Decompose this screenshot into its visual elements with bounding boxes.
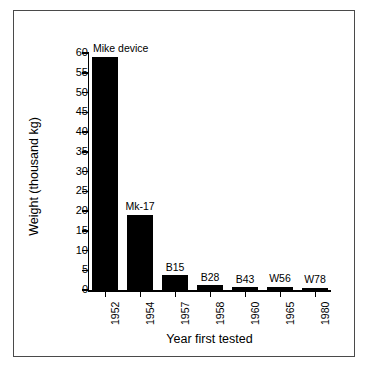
bar-label-w78: W78 (297, 274, 333, 285)
y-tick-mark-15 (82, 230, 88, 231)
bar-1980 (302, 288, 328, 290)
x-axis-title: Year first tested (88, 333, 331, 346)
bar-1952 (92, 57, 118, 290)
y-tick-mark-10 (82, 250, 88, 251)
y-tick-mark-5 (82, 270, 88, 271)
x-tick-label-1954: 1954 (145, 302, 156, 325)
bar-label-b28: B28 (192, 272, 228, 283)
x-tick-mark-1980 (315, 291, 316, 297)
x-tick-mark-1958 (210, 291, 211, 297)
x-tick-mark-1957 (175, 291, 176, 297)
bar-chart-plot: 60 55 50 45 40 35 30 25 (0, 0, 367, 368)
x-tick-label-1952: 1952 (110, 302, 121, 325)
y-tick-mark-0 (82, 289, 88, 290)
y-tick-mark-25 (82, 191, 88, 192)
bar-1965 (267, 287, 293, 290)
bar-label-w56: W56 (262, 273, 298, 284)
x-tick-mark-1965 (280, 291, 281, 297)
x-tick-label-1958: 1958 (215, 302, 226, 325)
y-axis-title: Weight (thousand kg) (28, 97, 41, 257)
x-tick-label-1965: 1965 (285, 302, 296, 325)
y-axis-line (88, 52, 89, 291)
x-tick-mark-1954 (140, 291, 141, 297)
x-tick-label-1980: 1980 (320, 302, 331, 325)
y-tick-mark-45 (82, 112, 88, 113)
y-tick-mark-30 (82, 171, 88, 172)
y-tick-mark-60 (82, 52, 88, 53)
y-tick-mark-55 (82, 72, 88, 73)
y-tick-mark-20 (82, 210, 88, 211)
bar-1957 (162, 275, 188, 290)
x-tick-mark-1952 (105, 291, 106, 297)
bar-label-mike-device: Mike device (93, 43, 163, 54)
bar-1958 (197, 285, 223, 290)
bar-1960 (232, 287, 258, 290)
y-tick-mark-50 (82, 92, 88, 93)
x-tick-mark-1960 (245, 291, 246, 297)
bar-label-b15: B15 (157, 262, 193, 273)
bar-label-mk-17: Mk-17 (122, 201, 158, 212)
y-tick-mark-40 (82, 131, 88, 132)
bar-1954 (127, 215, 153, 290)
y-tick-mark-35 (82, 151, 88, 152)
bar-label-b43: B43 (227, 274, 263, 285)
x-tick-label-1957: 1957 (180, 302, 191, 325)
figure-container: 60 55 50 45 40 35 30 25 (0, 0, 367, 368)
x-tick-label-1960: 1960 (250, 302, 261, 325)
